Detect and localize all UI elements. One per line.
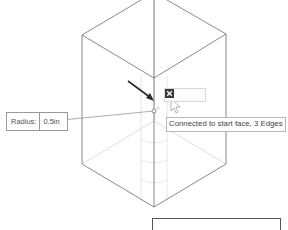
- snap-indicator: [157, 107, 159, 109]
- close-icon[interactable]: [193, 91, 202, 100]
- mini-toolbar: [164, 88, 206, 102]
- dimension-leader: [62, 111, 154, 120]
- bottom-panel: [152, 218, 281, 230]
- visible-edges: [82, 0, 226, 207]
- radius-input-box[interactable]: Radius: 0.5in: [6, 112, 68, 131]
- radius-value-field[interactable]: 0.5in: [40, 113, 67, 130]
- hole-center-point[interactable]: [152, 109, 156, 113]
- status-tooltip: Connected to start face, 3 Edges: [166, 117, 286, 132]
- 3d-viewport[interactable]: Radius: 0.5in Connected to start face, 3…: [0, 0, 288, 230]
- radius-label: Radius:: [7, 113, 40, 130]
- solid-icon[interactable]: [181, 91, 190, 100]
